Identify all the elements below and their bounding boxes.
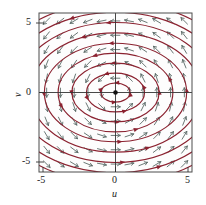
y-tick-label-5: 5 xyxy=(26,16,31,27)
x-tick-label-5: 5 xyxy=(185,174,190,185)
x-tick-label-neg5: -5 xyxy=(37,174,45,185)
x-axis-label: u xyxy=(112,188,117,199)
equilibrium-point xyxy=(113,90,118,95)
y-tick-label-0: 0 xyxy=(26,86,31,97)
y-axis-label: v xyxy=(12,93,23,97)
phase-portrait-plot xyxy=(0,0,206,205)
phase-portrait-figure: 5 0 -5 -5 0 5 u v xyxy=(0,0,206,205)
y-tick-label-neg5: -5 xyxy=(22,155,30,166)
x-tick-label-0: 0 xyxy=(112,174,117,185)
